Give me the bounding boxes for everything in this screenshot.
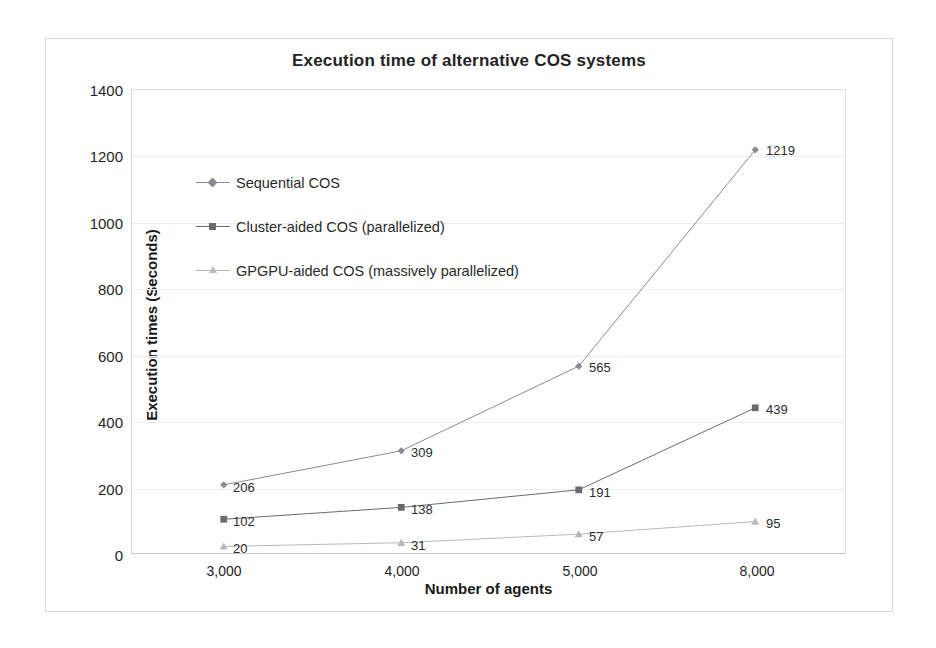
chart-title: Execution time of alternative COS system… [46, 51, 892, 71]
x-axis-tick-label: 5,000 [562, 563, 597, 579]
series-line [224, 408, 756, 519]
square-icon [209, 223, 216, 230]
x-axis-tick-label: 3,000 [206, 563, 241, 579]
data-point-label: 191 [589, 484, 611, 499]
y-axis-tick-label: 1200 [90, 148, 123, 165]
data-point-label: 57 [589, 529, 603, 544]
data-point-label: 1219 [766, 143, 795, 158]
data-point-marker [398, 504, 405, 511]
x-axis-tick-label: 8,000 [739, 563, 774, 579]
series-line [224, 522, 756, 547]
data-point-label: 95 [766, 516, 780, 531]
data-point-label: 565 [589, 360, 611, 375]
data-point-marker [220, 516, 227, 523]
x-axis-title: Number of agents [131, 580, 846, 597]
legend-item[interactable]: Cluster-aided COS (parallelized) [196, 205, 616, 249]
x-axis-tick-label: 4,000 [384, 563, 419, 579]
legend-marker-triangle-icon [196, 264, 230, 278]
legend-item[interactable]: Sequential COS [196, 161, 616, 205]
legend-label: Sequential COS [236, 175, 340, 191]
data-point-marker [398, 447, 405, 454]
chart-legend: Sequential COSCluster-aided COS (paralle… [196, 161, 616, 293]
legend-item[interactable]: GPGPU-aided COS (massively parallelized) [196, 249, 616, 293]
legend-label: GPGPU-aided COS (massively parallelized) [236, 263, 519, 279]
legend-marker-diamond-icon [196, 176, 230, 190]
data-point-marker [220, 481, 227, 488]
triangle-icon [209, 266, 217, 273]
y-axis-tick-label: 1400 [90, 82, 123, 99]
diamond-icon [208, 178, 218, 188]
data-point-label: 206 [233, 479, 255, 494]
legend-marker-square-icon [196, 220, 230, 234]
data-point-marker [752, 404, 759, 411]
plot-area: 0200400600800100012001400 3,0004,0005,00… [131, 89, 846, 554]
data-point-marker [575, 486, 582, 493]
data-point-marker [751, 518, 759, 525]
legend-label: Cluster-aided COS (parallelized) [236, 219, 445, 235]
data-point-label: 102 [233, 514, 255, 529]
data-point-label: 309 [411, 445, 433, 460]
data-point-label: 138 [411, 502, 433, 517]
y-axis-tick-label: 200 [98, 480, 123, 497]
y-axis-tick-label: 400 [98, 414, 123, 431]
y-axis-tick-label: 1000 [90, 214, 123, 231]
y-axis-tick-label: 600 [98, 347, 123, 364]
data-point-label: 439 [766, 402, 788, 417]
y-axis-tick-label: 800 [98, 281, 123, 298]
data-point-label: 31 [411, 537, 425, 552]
chart-figure: Execution time of alternative COS system… [45, 38, 893, 612]
y-axis-tick-label: 0 [115, 547, 123, 564]
data-point-label: 20 [233, 541, 247, 556]
